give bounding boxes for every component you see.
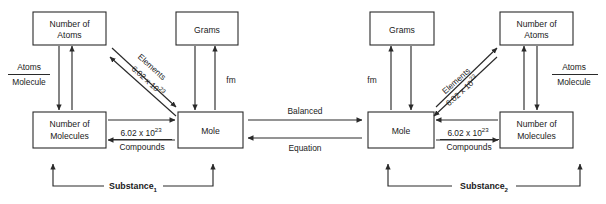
- label-atoms-per-molecule-left: Atoms Molecule: [8, 62, 50, 87]
- bracket-path-right: [163, 180, 213, 186]
- box-mole-right: Mole: [368, 112, 434, 148]
- fraction-numerator: Atoms: [17, 62, 41, 72]
- box-label-line1: Number of: [516, 119, 557, 129]
- box-label-line2: Molecules: [517, 131, 556, 141]
- compounds-numerator-base: 6.02 x 10: [447, 128, 482, 138]
- substance-label-left: Substance1: [109, 181, 158, 193]
- substance-subscript: 1: [154, 186, 158, 193]
- bracket-path-right: [516, 180, 580, 186]
- box-label: Grams: [389, 25, 415, 35]
- box-label-line2: Atoms: [57, 30, 81, 40]
- box-mole-left: Mole: [178, 112, 243, 148]
- compounds-denominator: Compounds: [446, 142, 491, 152]
- box-label: Grams: [194, 25, 220, 35]
- compounds-numerator-base: 6.02 x 10: [120, 128, 155, 138]
- substance-text: Substance: [460, 181, 505, 191]
- box-number-of-molecules-left: Number of Molecules: [33, 112, 106, 148]
- box-label-line2: Atoms: [524, 30, 548, 40]
- box-number-of-atoms-right: Number of Atoms: [500, 12, 573, 45]
- svg-text:6.02 x 1023: 6.02 x 1023: [447, 126, 489, 138]
- substance-text: Substance: [109, 181, 154, 191]
- panel-substance-2: Grams Number of Atoms Mole Number of Mol…: [367, 12, 598, 193]
- label-equation: Equation: [288, 143, 321, 153]
- label-compounds-right: 6.02 x 1023 Compounds: [440, 126, 499, 152]
- fraction-numerator: Atoms: [562, 62, 586, 72]
- box-number-of-atoms-left: Number of Atoms: [33, 12, 106, 45]
- label-compounds-left: 6.02 x 1023 Compounds: [113, 126, 172, 152]
- diagram-canvas: Number of Atoms Grams Number of Molecule…: [0, 0, 606, 204]
- box-outline: [500, 12, 573, 45]
- panel-substance-1: Number of Atoms Grams Number of Molecule…: [8, 12, 243, 193]
- label-atoms-per-molecule-right: Atoms Molecule: [552, 62, 598, 87]
- bracket-path-left: [53, 180, 104, 186]
- arrow-mole-to-atoms-diagonal: [110, 57, 176, 116]
- compounds-numerator-exponent: 23: [482, 126, 489, 133]
- substance-label-right: Substance2: [460, 181, 509, 193]
- label-formula-mass-left: fm: [226, 75, 235, 85]
- box-label-line2: Molecules: [50, 131, 89, 141]
- bracket-path-left: [388, 180, 452, 186]
- box-number-of-molecules-right: Number of Molecules: [500, 112, 573, 148]
- center-balanced-equation-link: Balanced Equation: [248, 106, 362, 153]
- fraction-denominator: Molecule: [12, 77, 46, 87]
- box-label-line1: Number of: [516, 19, 557, 29]
- box-label-line1: Number of: [49, 19, 90, 29]
- box-label-line1: Number of: [49, 119, 90, 129]
- fraction-denominator: Molecule: [557, 77, 591, 87]
- label-balanced: Balanced: [288, 106, 323, 116]
- mole-concept-diagram: Number of Atoms Grams Number of Molecule…: [0, 0, 606, 204]
- box-label: Mole: [392, 126, 411, 136]
- box-label: Mole: [201, 126, 220, 136]
- substance-subscript: 2: [505, 186, 509, 193]
- box-outline: [33, 12, 106, 45]
- svg-text:6.02 x 1023: 6.02 x 1023: [120, 126, 162, 138]
- box-grams-left: Grams: [176, 12, 238, 45]
- box-grams-right: Grams: [370, 12, 434, 45]
- compounds-denominator: Compounds: [119, 142, 164, 152]
- compounds-numerator-exponent: 23: [155, 126, 162, 133]
- label-formula-mass-right: fm: [367, 75, 376, 85]
